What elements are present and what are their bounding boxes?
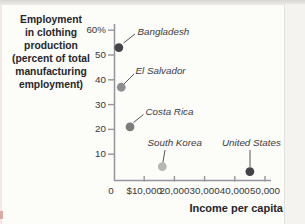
label-south-korea: South Korea: [148, 137, 202, 148]
data-point-el-salvador: [117, 83, 126, 92]
data-point-bangladesh: [114, 43, 123, 52]
y-tick-label: 40: [70, 74, 106, 85]
x-tick-label: 50,000: [239, 185, 291, 196]
leader-line-costa-rica: [134, 115, 144, 123]
label-bangladesh: Bangladesh: [138, 26, 190, 37]
leader-line-el-salvador: [124, 74, 134, 84]
leader-line-south-korea: [163, 150, 165, 163]
y-tick-label: 60%: [70, 24, 106, 35]
x-axis-title: Income per capita: [189, 202, 283, 214]
y-tick-label: 30: [70, 99, 106, 110]
data-point-south-korea: [158, 162, 167, 171]
label-el-salvador: El Salvador: [136, 65, 186, 76]
figure-container: Employment in clothing production (perce…: [0, 0, 305, 224]
label-united-states: United States: [222, 137, 281, 148]
y-tick-label: 20: [70, 123, 106, 134]
y-tick-label: 10: [70, 148, 106, 159]
y-tick-label: 50: [70, 49, 106, 60]
label-costa-rica: Costa Rica: [146, 106, 194, 117]
data-point-costa-rica: [126, 123, 135, 132]
data-point-united-states: [246, 167, 255, 176]
leader-line-bangladesh: [124, 34, 136, 43]
